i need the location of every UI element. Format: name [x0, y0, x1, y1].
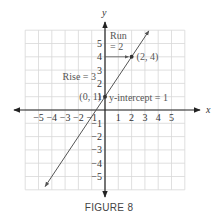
x-axis-label: x — [205, 104, 211, 115]
figure-caption: FIGURE 8 — [0, 202, 218, 213]
data-point — [130, 55, 134, 59]
x-tick-label: −2 — [73, 112, 84, 123]
x-tick-label: 3 — [142, 112, 147, 123]
rise-label: Rise = 3 — [63, 71, 96, 82]
y-tick-label: −3 — [91, 144, 102, 155]
y-tick-label: 5 — [97, 38, 102, 49]
point-label: (2, 4) — [137, 51, 159, 63]
point-label: (0, 1) — [79, 91, 101, 103]
y-tick-label: −4 — [91, 158, 102, 169]
chart: xy −5−4−3−2−112345−5−4−3−2−112345 (0, 1)… — [0, 0, 218, 224]
data-point — [103, 95, 107, 99]
y-tick-label: −5 — [91, 171, 102, 182]
x-tick-label: 2 — [129, 112, 134, 123]
x-tick-label: 1 — [116, 112, 121, 123]
run-label: = 2 — [110, 41, 123, 52]
run-label: Run — [110, 30, 127, 41]
x-tick-label: 5 — [169, 112, 174, 123]
intercept-label: y-intercept = 1 — [109, 92, 168, 103]
x-tick-label: 4 — [156, 112, 161, 123]
y-tick-label: 2 — [97, 78, 102, 89]
x-tick-label: −3 — [60, 112, 71, 123]
x-tick-label: −4 — [46, 112, 57, 123]
y-tick-label: −2 — [91, 131, 102, 142]
y-axis-label: y — [101, 7, 107, 18]
x-tick-label: −5 — [33, 112, 44, 123]
y-tick-label: 3 — [97, 65, 102, 76]
y-tick-label: 4 — [97, 51, 102, 62]
y-tick-label: −1 — [91, 118, 102, 129]
